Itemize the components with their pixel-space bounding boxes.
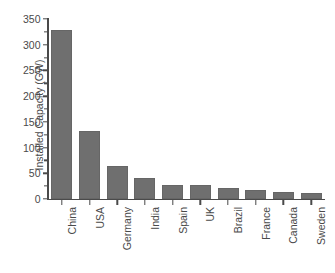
bar-chart: Installed Capacity (GW) 0501001502002503…	[0, 0, 335, 273]
x-tick-mark	[255, 200, 256, 205]
x-tick-mark	[200, 200, 201, 205]
x-tick-label: Canada	[287, 207, 299, 244]
x-tick-label: Sweden	[315, 207, 327, 245]
x-tick-mark	[283, 200, 284, 205]
x-tick-label: USA	[94, 207, 106, 229]
x-tick-label: France	[260, 207, 272, 240]
x-axis-ticks: ChinaUSAGermanyIndiaSpainUKBrazilFranceC…	[0, 0, 335, 273]
x-tick-mark	[89, 200, 90, 205]
x-tick-mark	[144, 200, 145, 205]
x-tick-label: China	[66, 207, 78, 234]
x-tick-mark	[310, 200, 311, 205]
x-tick-label: UK	[204, 207, 216, 222]
x-tick-label: Germany	[121, 207, 133, 250]
x-tick-mark	[172, 200, 173, 205]
x-tick-label: India	[149, 207, 161, 230]
x-tick-mark	[117, 200, 118, 205]
x-tick-label: Brazil	[232, 207, 244, 233]
x-tick-mark	[227, 200, 228, 205]
x-tick-label: Spain	[177, 207, 189, 234]
x-tick-mark	[61, 200, 62, 205]
